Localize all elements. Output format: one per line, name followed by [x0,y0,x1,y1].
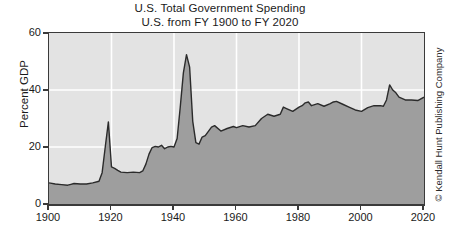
chart-subtitle: U.S. from FY 1900 to FY 2020 [0,15,440,29]
chart-title: U.S. Total Government Spending [0,1,440,15]
y-tick-mark [43,89,48,91]
y-tick-label: 40 [29,83,41,95]
y-axis-label: Percent GDP [18,39,30,149]
x-tick-mark [360,205,362,210]
x-tick-mark [235,205,237,210]
x-tick-mark [47,205,49,210]
y-tick-label: 20 [29,140,41,152]
x-tick-label: 1980 [276,211,320,223]
y-tick-label: 60 [29,26,41,38]
publisher-credit: © Kendall Hunt Publishing Company [433,20,444,230]
axis-bottom-line [48,204,425,206]
y-tick-mark [43,146,48,148]
x-tick-label: 1940 [151,211,195,223]
y-tick-mark [43,32,48,34]
x-tick-mark [172,205,174,210]
x-tick-mark [110,205,112,210]
x-tick-label: 2000 [339,211,383,223]
chart-figure: U.S. Total Government Spending U.S. from… [0,0,454,243]
x-tick-label: 1920 [89,211,133,223]
x-tick-mark [422,205,424,210]
y-tick-label: 0 [35,197,41,209]
area-chart-svg [49,33,424,204]
chart-title-block: U.S. Total Government Spending U.S. from… [0,1,440,29]
x-tick-label: 1960 [214,211,258,223]
plot-area [48,33,425,204]
x-tick-mark [297,205,299,210]
x-tick-label: 1900 [26,211,70,223]
